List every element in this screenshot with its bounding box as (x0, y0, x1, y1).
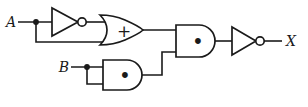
not-gate-output-triangle (232, 27, 256, 55)
input-b-label: B (58, 59, 69, 75)
wire-andb-to-andmain (142, 52, 178, 75)
junction-dot-a (33, 19, 39, 25)
and-gate-b-dot-symbol: • (119, 64, 131, 88)
input-a-label: A (4, 14, 16, 30)
not-gate-output (232, 27, 264, 55)
not-gate-a (52, 8, 86, 36)
circuit-svg: + • • A B X (0, 0, 308, 107)
not-gate-a-bubble (78, 18, 86, 26)
not-gate-output-bubble (256, 37, 264, 45)
and-gate-main-dot-symbol: • (192, 30, 204, 54)
or-gate-plus-symbol: + (117, 21, 131, 41)
not-gate-a-triangle (52, 8, 78, 36)
output-x-label: X (285, 33, 297, 49)
gates (52, 8, 264, 90)
logic-circuit-diagram: + • • A B X (0, 0, 308, 107)
junction-dot-b (84, 64, 90, 70)
